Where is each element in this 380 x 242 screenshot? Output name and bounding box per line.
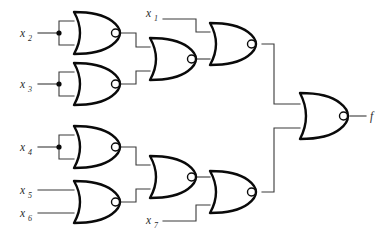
inversion-bubble-icon: [112, 29, 120, 37]
circuit-canvas: x 2 x 3 x 1 x 4 x 5 x 6 x 7 f: [0, 0, 380, 242]
wire-g6-to-g7: [120, 189, 150, 202]
logic-circuit-diagram: x 2 x 3 x 1 x 4 x 5 x 6 x 7 f: [0, 0, 380, 242]
input-label-x4-subscript: 4: [28, 148, 32, 157]
input-label-x6-subscript: 6: [28, 214, 32, 223]
nor-gate-mid-upper[interactable]: [150, 38, 196, 80]
wire-g5-to-g7: [120, 147, 150, 165]
inversion-bubble-icon: [112, 198, 120, 206]
input-label-x1: x: [145, 7, 152, 19]
junction-x4: [56, 144, 61, 149]
input-label-x5-subscript: 5: [28, 191, 32, 200]
inversion-bubble-icon: [188, 173, 196, 181]
input-label-x5: x: [19, 184, 26, 196]
junction-x3: [56, 81, 61, 86]
wire-g2-to-g3: [120, 71, 150, 84]
nor-gate-x2[interactable]: [74, 12, 120, 54]
wire-x1-input: [163, 19, 210, 32]
wire-g8-to-output-gate: [262, 128, 300, 192]
output-label-f: f: [370, 110, 375, 123]
input-label-x3: x: [19, 78, 26, 90]
inversion-bubble-icon: [112, 80, 120, 88]
inversion-bubble-icon: [248, 188, 256, 196]
nor-gate-lower-right[interactable]: [210, 171, 256, 213]
nor-gate-mid-lower[interactable]: [150, 156, 196, 198]
wire-x7-input: [163, 205, 210, 221]
input-label-x4: x: [19, 141, 26, 153]
input-label-x7: x: [145, 214, 152, 226]
junction-x2: [56, 30, 61, 35]
nor-gate-x4[interactable]: [74, 126, 120, 168]
inversion-bubble-icon: [340, 112, 348, 120]
inversion-bubble-icon: [248, 40, 256, 48]
input-label-x3-subscript: 3: [27, 85, 32, 94]
nor-gate-output[interactable]: [300, 93, 348, 139]
nor-gate-x5-x6[interactable]: [74, 181, 120, 223]
input-label-x2: x: [19, 27, 26, 39]
wire-g1-to-g3: [120, 33, 150, 47]
nor-gate-upper-right[interactable]: [210, 23, 256, 65]
input-label-x2-subscript: 2: [28, 34, 32, 43]
inversion-bubble-icon: [112, 143, 120, 151]
wire-g4-to-output-gate: [262, 44, 300, 104]
input-label-x6: x: [19, 207, 26, 219]
inversion-bubble-icon: [188, 55, 196, 63]
nor-gate-x3[interactable]: [74, 63, 120, 105]
input-label-x1-subscript: 1: [154, 14, 158, 23]
input-label-x7-subscript: 7: [154, 221, 159, 230]
